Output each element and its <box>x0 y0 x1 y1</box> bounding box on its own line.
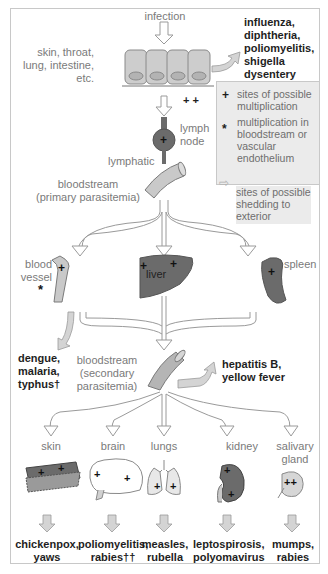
disease-line: yaws <box>12 551 82 564</box>
legend-text: sites of possible multiplication <box>237 88 312 112</box>
infection-label: infection <box>140 10 190 23</box>
legend-line: bloodstream or <box>237 128 309 140</box>
primary-bloodstream-label: bloodstream (primary parasitemia) <box>36 178 140 204</box>
svg-text:+: + <box>94 468 100 480</box>
legend-line: shedding to <box>236 198 311 210</box>
label-line: gland <box>272 453 318 466</box>
label-line: salivary <box>272 440 318 453</box>
label-line: lymph <box>180 122 209 135</box>
svg-text:+: + <box>58 261 65 275</box>
salivary-gland-icon: ++ <box>278 472 303 498</box>
disease-line: rabies <box>268 551 318 564</box>
legend-shedding-text: sites of possible shedding to exterior <box>236 186 311 224</box>
diseases-brain: poliomyelitis, rabies†† <box>78 538 148 564</box>
disease-line: malaria, <box>18 365 60 378</box>
target-label-kidney: kidney <box>219 440 265 453</box>
legend: + sites of possible multiplication * mul… <box>216 81 320 185</box>
svg-text:+: + <box>38 466 44 478</box>
disease-line: hepatitis B, <box>222 358 285 371</box>
legend-line: multiplication <box>237 100 312 112</box>
plus-icon: + <box>222 88 229 102</box>
spleen-label: spleen <box>284 258 316 271</box>
shedding-arrow-icon: ⇨ <box>219 176 229 190</box>
disease-line: dengue, <box>18 352 60 365</box>
blood-vessel-label: blood vessel <box>14 258 52 284</box>
skin-icon: + + <box>26 462 80 492</box>
label-line: vessel <box>14 271 52 284</box>
legend-line: exterior <box>236 210 311 222</box>
label-line: node <box>180 135 209 148</box>
lymph-node-label: lymph node <box>180 122 209 148</box>
disease-line: poliomyelitis, <box>78 538 148 551</box>
svg-text:+: + <box>160 133 167 147</box>
target-label-salivary-gland: salivary gland <box>272 440 318 466</box>
fanout-arrows <box>50 392 290 428</box>
shed-diseases-entry: influenza, diphtheria, poliomyelitis, sh… <box>244 16 314 81</box>
shed-down-arrows <box>39 515 300 532</box>
label-line: bloodstream <box>36 178 140 191</box>
brain-icon: + + <box>90 459 143 500</box>
legend-line: multiplication in <box>237 116 309 128</box>
diseases-skin: chickenpox, yaws <box>12 538 82 564</box>
disease-line: leptospirosis, <box>193 538 263 551</box>
legend-text: multiplication in bloodstream or vascula… <box>237 116 309 164</box>
entry-sites-label: skin, throat, lung, intestine, etc. <box>14 46 94 85</box>
disease-line: rabies†† <box>78 551 148 564</box>
target-label-brain: brain <box>90 440 136 453</box>
shedding-arrow-icon <box>212 52 240 72</box>
entry-sites-line: skin, throat, <box>14 46 94 59</box>
disease-line: influenza, <box>244 16 314 29</box>
disease-line: diphtheria, <box>244 29 314 42</box>
label-line: (primary parasitemia) <box>36 191 140 204</box>
svg-text:+: + <box>268 265 275 279</box>
lymphatic-label: lymphatic <box>108 155 154 168</box>
asterisk-icon: * <box>222 122 227 136</box>
disease-line: mumps, <box>268 538 318 551</box>
svg-text:++: ++ <box>284 476 297 488</box>
label-line: parasitemia) <box>74 380 140 393</box>
secondary-bloodstream-label: bloodstream (secondary parasitemia) <box>74 354 140 393</box>
target-label-lungs: lungs <box>141 440 187 453</box>
svg-text:+: + <box>154 480 160 492</box>
shedding-arrow-icon <box>58 312 74 350</box>
disease-line: dysentery <box>244 68 314 81</box>
kidney-icon: + + <box>218 464 245 502</box>
diseases-lungs: measles, rubella <box>140 538 190 564</box>
shed-diseases-secondary: hepatitis B, yellow fever <box>222 358 285 384</box>
target-label-skin: skin <box>28 440 74 453</box>
diseases-salivary-gland: mumps, rabies <box>268 538 318 564</box>
down-arrow-icon <box>156 96 172 116</box>
svg-text:+: + <box>170 480 176 492</box>
disease-line: shigella <box>244 55 314 68</box>
svg-text:+: + <box>170 257 177 271</box>
epithelium-cells-icon <box>122 50 214 86</box>
disease-line: chickenpox, <box>12 538 82 551</box>
liver-label: liver <box>146 268 166 281</box>
svg-text:+: + <box>224 464 230 476</box>
disease-line: poliomyelitis, <box>244 42 314 55</box>
diseases-kidney: leptospirosis, polyomavirus <box>193 538 263 564</box>
label-line: bloodstream <box>74 354 140 367</box>
lungs-icon: + + <box>148 460 181 495</box>
asterisk-mark: * <box>38 282 44 297</box>
converge-arrows <box>80 296 256 340</box>
label-line: (secondary <box>74 367 140 380</box>
disease-line: measles, <box>140 538 190 551</box>
shedding-arrow-icon <box>178 362 216 388</box>
legend-line: endothelium <box>237 152 309 164</box>
legend-line: sites of possible <box>236 186 311 198</box>
entry-sites-line: etc. <box>14 72 94 85</box>
disease-line: polyomavirus <box>193 551 263 564</box>
legend-line: sites of possible <box>237 88 312 100</box>
entry-sites-line: lung, intestine, <box>14 59 94 72</box>
svg-text:+: + <box>228 488 234 500</box>
disease-line: typhus† <box>18 378 60 391</box>
svg-text:+: + <box>124 472 130 484</box>
disease-line: yellow fever <box>222 371 285 384</box>
infection-arrow-icon <box>155 22 173 44</box>
legend-line: vascular <box>237 140 309 152</box>
disease-line: rubella <box>140 551 190 564</box>
label-line: blood <box>14 258 52 271</box>
plus-marks: + + <box>183 94 199 106</box>
branch-arrows-primary <box>78 200 250 248</box>
